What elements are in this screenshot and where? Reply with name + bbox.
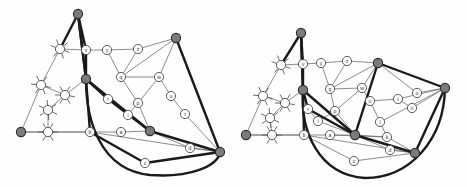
- vertex-label: u: [170, 93, 173, 99]
- vertex-label: y: [106, 47, 109, 53]
- vertex-label: l: [379, 119, 380, 125]
- vertex-label: k: [386, 134, 389, 140]
- star-spoke: [280, 95, 282, 99]
- vertex-label: d: [389, 147, 392, 153]
- thin-edge-layer: [21, 14, 220, 163]
- star-spoke: [43, 137, 45, 141]
- star-spoke: [275, 140, 277, 144]
- star-vertex[interactable]: [258, 91, 267, 100]
- graph-edge-highlighted: [150, 131, 220, 152]
- vertex-label: w: [157, 74, 161, 80]
- star-spoke: [272, 62, 276, 64]
- terminal-vertex[interactable]: [81, 74, 90, 83]
- vertex-label: i: [127, 112, 128, 118]
- vertex-label: a: [329, 132, 332, 138]
- vertex-label: b: [303, 132, 306, 138]
- vertex-label: c: [144, 160, 147, 166]
- star-spoke: [40, 113, 44, 116]
- star-vertex[interactable]: [43, 105, 52, 114]
- star-spoke: [68, 87, 70, 91]
- graph-edge: [335, 88, 362, 111]
- star-spoke: [288, 108, 290, 112]
- graph-edge-highlighted: [281, 33, 301, 65]
- graph-edge: [263, 65, 281, 96]
- star-vertex[interactable]: [43, 127, 52, 136]
- star-spoke: [60, 100, 62, 104]
- star-spoke: [60, 87, 62, 91]
- star-spoke: [268, 97, 272, 98]
- terminal-vertex[interactable]: [145, 126, 154, 135]
- vertex-label: z: [137, 46, 140, 52]
- graph-edge: [41, 49, 60, 85]
- vertex-label: v: [302, 61, 305, 67]
- star-spoke: [53, 112, 57, 114]
- graph-edge-highlighted: [145, 152, 220, 163]
- star-vertex[interactable]: [55, 44, 64, 53]
- terminal-vertex[interactable]: [298, 85, 307, 94]
- star-vertex[interactable]: [60, 90, 69, 99]
- vertex-label: d: [189, 145, 192, 151]
- terminal-vertex[interactable]: [171, 33, 180, 42]
- graph-edge-highlighted: [176, 38, 220, 152]
- star-spoke: [57, 40, 59, 44]
- vertex-label: p: [137, 100, 140, 106]
- graph-edge: [378, 63, 417, 93]
- star-spoke: [267, 140, 269, 144]
- panel-left-embedding: vyzqwutrpibadc: [16, 9, 224, 175]
- star-spoke: [51, 137, 53, 141]
- star-spoke: [51, 124, 53, 128]
- vertex-label: c: [353, 158, 356, 164]
- terminal-vertex[interactable]: [373, 58, 382, 67]
- star-spoke: [275, 127, 277, 131]
- vertex-label: r: [107, 96, 109, 102]
- graph-edge: [354, 153, 415, 161]
- star-spoke: [283, 70, 285, 74]
- star-vertex[interactable]: [36, 80, 45, 89]
- star-spoke: [39, 106, 43, 108]
- graph-embedding-figure: vyzqwutrpibadcvyzqwutonrpilkbadc: [0, 0, 467, 187]
- star-vertex[interactable]: [280, 98, 289, 107]
- terminal-vertex[interactable]: [241, 130, 250, 139]
- star-spoke: [259, 87, 261, 91]
- terminal-vertex[interactable]: [440, 83, 449, 92]
- graph-edge: [21, 85, 41, 132]
- graph-edge: [138, 38, 176, 49]
- terminal-vertex[interactable]: [296, 28, 305, 37]
- terminal-vertex[interactable]: [350, 130, 359, 139]
- star-spoke: [261, 114, 265, 116]
- vertex-label: i: [317, 118, 318, 124]
- graph-edge-highlighted: [60, 14, 78, 49]
- star-spoke: [43, 90, 45, 94]
- terminal-vertex[interactable]: [16, 127, 25, 136]
- vertex-label: u: [369, 98, 372, 104]
- star-spoke: [70, 96, 74, 97]
- vertex-label: n: [411, 105, 414, 111]
- star-vertex[interactable]: [276, 60, 285, 69]
- vertex-label: b: [89, 129, 92, 135]
- panel-right-embedding: vyzqwutonrpilkbadc: [241, 28, 449, 178]
- star-spoke: [275, 120, 279, 122]
- vertex-label: w: [360, 85, 364, 91]
- star-vertex[interactable]: [267, 130, 276, 139]
- star-spoke: [62, 54, 64, 58]
- star-spoke: [68, 100, 70, 104]
- vertex-label: a: [120, 129, 123, 135]
- terminal-vertex[interactable]: [73, 9, 82, 18]
- figure-canvas: vyzqwutrpibadcvyzqwutonrpilkbadc: [0, 0, 467, 187]
- vertex-label: z: [346, 58, 349, 64]
- vertex-label: q: [329, 86, 332, 92]
- star-spoke: [43, 124, 45, 128]
- terminal-vertex[interactable]: [410, 148, 419, 157]
- star-vertex[interactable]: [265, 113, 274, 122]
- graph-edge-highlighted: [378, 63, 445, 88]
- thick-edge-layer: [60, 14, 220, 175]
- vertex-label: v: [85, 47, 88, 53]
- star-spoke: [280, 108, 282, 112]
- star-spoke: [65, 51, 69, 53]
- vertex-label: y: [320, 60, 323, 66]
- graph-edge: [246, 96, 263, 135]
- vertex-label: o: [416, 90, 419, 96]
- vertex-label: q: [120, 74, 123, 80]
- terminal-vertex[interactable]: [215, 147, 224, 156]
- star-spoke: [51, 46, 55, 48]
